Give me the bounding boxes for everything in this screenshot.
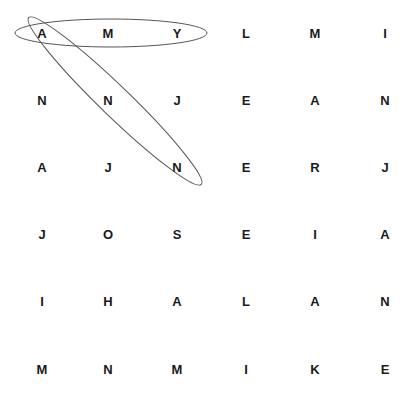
grid-cell[interactable]: Y — [162, 24, 192, 44]
grid-cell[interactable]: A — [300, 292, 330, 312]
grid-cell[interactable]: E — [231, 225, 261, 245]
grid-cell[interactable]: A — [370, 225, 400, 245]
grid-cell[interactable]: I — [27, 292, 57, 312]
grid-cell[interactable]: E — [231, 91, 261, 111]
grid-cell[interactable]: H — [93, 292, 123, 312]
grid-cell[interactable]: M — [93, 24, 123, 44]
grid-cell[interactable]: I — [300, 225, 330, 245]
word-search-grid: A M Y L M I N N J E A N A J N E R J J O … — [0, 0, 413, 399]
grid-cell[interactable]: S — [162, 225, 192, 245]
grid-cell[interactable]: L — [231, 292, 261, 312]
grid-cell[interactable]: A — [300, 91, 330, 111]
grid-cell[interactable]: N — [27, 91, 57, 111]
grid-cell[interactable]: K — [300, 360, 330, 380]
grid-cell[interactable]: M — [162, 360, 192, 380]
grid-cell[interactable]: O — [93, 225, 123, 245]
grid-cell[interactable]: M — [300, 24, 330, 44]
grid-cell[interactable]: N — [370, 292, 400, 312]
grid-cell[interactable]: N — [162, 158, 192, 178]
grid-cell[interactable]: I — [370, 24, 400, 44]
grid-cell[interactable]: I — [231, 360, 261, 380]
grid-cell[interactable]: A — [27, 158, 57, 178]
grid-cell[interactable]: J — [27, 225, 57, 245]
grid-cell[interactable]: N — [93, 91, 123, 111]
grid-cell[interactable]: A — [162, 292, 192, 312]
grid-cell[interactable]: L — [231, 24, 261, 44]
grid-cell[interactable]: E — [370, 360, 400, 380]
grid-cell[interactable]: J — [370, 158, 400, 178]
grid-cell[interactable]: N — [93, 360, 123, 380]
grid-cell[interactable]: N — [370, 91, 400, 111]
grid-cell[interactable]: J — [162, 91, 192, 111]
grid-cell[interactable]: M — [27, 360, 57, 380]
grid-cell[interactable]: E — [231, 158, 261, 178]
grid-cell[interactable]: A — [27, 24, 57, 44]
grid-cell[interactable]: R — [300, 158, 330, 178]
grid-cell[interactable]: J — [93, 158, 123, 178]
